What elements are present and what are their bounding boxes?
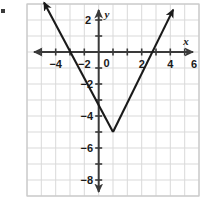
origin-label: 0 [103, 57, 109, 69]
graph-figure: −4 −2 0 2 4 6 2 −2 −4 −6 −8 x y [0, 0, 203, 201]
coordinate-plane: −4 −2 0 2 4 6 2 −2 −4 −6 −8 x y [0, 0, 203, 201]
y-tick-label--8: −8 [80, 174, 93, 186]
x-tick-label-2: 2 [139, 58, 145, 70]
y-tick-label--6: −6 [80, 142, 93, 154]
y-tick-label-2: 2 [85, 14, 91, 26]
x-tick-label--4: −4 [49, 58, 62, 70]
x-tick-label-4: 4 [167, 58, 174, 70]
x-tick-label-6: 6 [191, 58, 197, 70]
y-axis-label: y [103, 8, 110, 20]
y-tick-label--2: −2 [80, 78, 93, 90]
x-tick-label--2: −2 [78, 58, 91, 70]
x-axis-label: x [182, 35, 189, 47]
y-tick-label--4: −4 [80, 110, 93, 122]
